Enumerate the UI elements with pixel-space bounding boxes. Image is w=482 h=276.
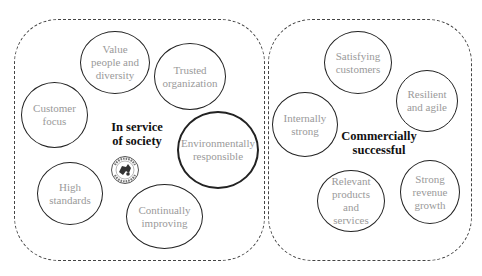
circle-label: Continually improving: [139, 204, 191, 230]
group-title-commercially-successful: Commercially successful: [338, 129, 420, 157]
diagram: Value people and diversity Trusted organ…: [0, 0, 482, 276]
circle-label: Resilient and agile: [407, 88, 447, 114]
circle-strong-revenue-growth: Strong revenue growth: [400, 160, 460, 224]
circle-environmentally-responsible: Environmentally responsible: [177, 111, 259, 189]
circle-customer-focus: Customer focus: [21, 82, 88, 148]
circle-relevant-products-and-services: Relevant products and services: [317, 170, 385, 232]
circle-label: Relevant products and services: [331, 175, 370, 227]
circle-label: Trusted organization: [163, 64, 218, 90]
circle-label: High standards: [49, 181, 91, 207]
circle-value-people-and-diversity: Value people and diversity: [80, 31, 150, 94]
circle-satisfying-customers: Satisfying customers: [324, 31, 392, 94]
circle-label: Environmentally responsible: [181, 137, 255, 163]
group-title-in-service-of-society: In service of society: [104, 120, 170, 148]
circle-continually-improving: Continually improving: [126, 184, 203, 249]
circle-label: Customer focus: [33, 102, 76, 128]
circle-label: Strong revenue growth: [413, 173, 448, 212]
circular-seal-badge-icon: [110, 155, 140, 185]
circle-label: Internally strong: [284, 112, 327, 138]
circle-label: Value people and diversity: [91, 43, 139, 82]
circle-label: Satisfying customers: [336, 50, 381, 76]
circle-trusted-organization: Trusted organization: [154, 43, 226, 110]
circle-resilient-and-agile: Resilient and agile: [396, 70, 458, 132]
circle-internally-strong: Internally strong: [272, 92, 338, 157]
circle-high-standards: High standards: [37, 162, 103, 225]
